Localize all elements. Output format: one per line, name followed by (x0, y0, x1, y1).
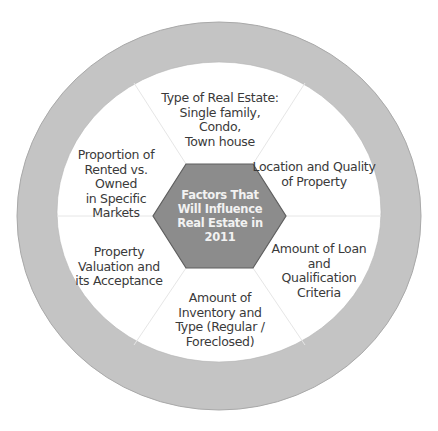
center-title: Factors That Will Influence Real Estate … (168, 188, 272, 244)
segment-inventory-type: Amount of Inventory and Type (Regular / … (168, 291, 272, 349)
segment-loan-qualification: Amount of Loan and Qualification Criteri… (268, 242, 370, 300)
segment-rented-vs-owned: Proportion of Rented vs. Owned in Specif… (62, 148, 170, 221)
segment-property-valuation: Property Valuation and its Acceptance (70, 245, 168, 289)
segment-location-quality: Location and Quality of Property (252, 160, 376, 189)
segment-type-of-real-estate: Type of Real Estate: Single family, Cond… (160, 91, 280, 149)
